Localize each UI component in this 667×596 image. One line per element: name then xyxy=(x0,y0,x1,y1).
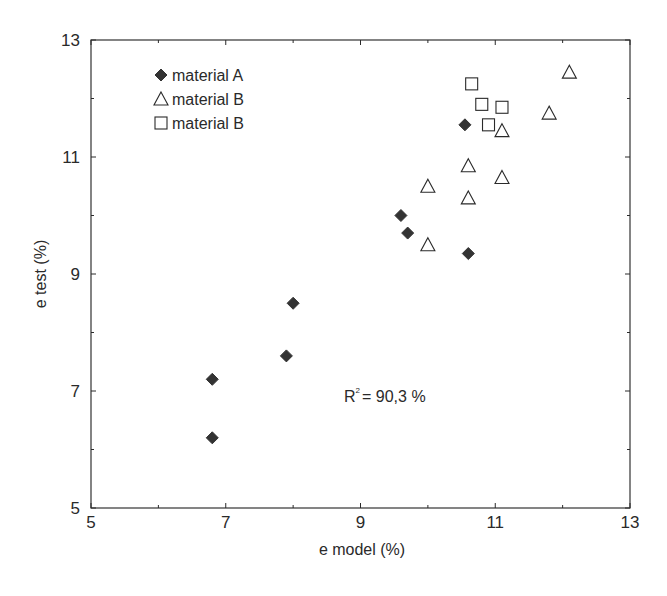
axis-ticks xyxy=(91,40,630,508)
r-base: R xyxy=(344,388,356,405)
triangle-marker xyxy=(495,170,509,183)
triangle-marker xyxy=(461,159,475,172)
legend-label: material B xyxy=(172,115,244,132)
y-tick-label: 5 xyxy=(71,499,80,518)
triangle-marker xyxy=(421,179,435,192)
x-axis-label: e model (%) xyxy=(319,541,405,558)
square-marker xyxy=(155,117,167,129)
legend: material Amaterial Bmaterial B xyxy=(154,67,244,132)
r-sup: 2 xyxy=(356,386,361,395)
diamond-marker xyxy=(206,373,218,385)
legend-item: material A xyxy=(155,67,243,84)
y-tick-label: 9 xyxy=(71,265,80,284)
diamond-marker xyxy=(280,350,292,362)
r-rest: = 90,3 % xyxy=(362,388,426,405)
r-squared-annotation: R2= 90,3 % xyxy=(344,386,426,405)
x-tick-label: 11 xyxy=(486,513,504,532)
diamond-marker xyxy=(402,227,414,239)
scatter-chart: 57911135791113 e model (%) e test (%) ma… xyxy=(0,0,667,596)
diamond-marker xyxy=(206,432,218,444)
square-marker xyxy=(476,98,488,110)
triangle-marker xyxy=(495,124,509,137)
x-tick-label: 5 xyxy=(86,513,95,532)
x-tick-label: 7 xyxy=(221,513,230,532)
data-points xyxy=(206,65,576,444)
y-axis-label: e test (%) xyxy=(32,240,49,308)
square-marker xyxy=(466,78,478,90)
triangle-marker xyxy=(542,106,556,119)
legend-label: material A xyxy=(172,67,243,84)
legend-label: material B xyxy=(172,91,244,108)
diamond-marker xyxy=(155,69,167,81)
x-tick-label: 13 xyxy=(621,513,640,532)
y-tick-label: 7 xyxy=(71,382,80,401)
square-marker xyxy=(496,101,508,113)
triangle-marker xyxy=(562,65,576,78)
legend-item: material B xyxy=(154,91,244,108)
triangle-marker xyxy=(154,92,168,105)
y-tick-label: 11 xyxy=(62,148,80,167)
square-marker xyxy=(483,119,495,131)
triangle-marker xyxy=(461,191,475,204)
legend-item: material B xyxy=(155,115,244,132)
y-tick-label: 13 xyxy=(61,31,80,50)
tick-labels: 57911135791113 xyxy=(61,31,639,532)
diamond-marker xyxy=(287,297,299,309)
diamond-marker xyxy=(395,210,407,222)
triangle-marker xyxy=(421,238,435,251)
plot-frame xyxy=(91,40,630,508)
diamond-marker xyxy=(459,119,471,131)
diamond-marker xyxy=(462,248,474,260)
x-tick-label: 9 xyxy=(356,513,365,532)
